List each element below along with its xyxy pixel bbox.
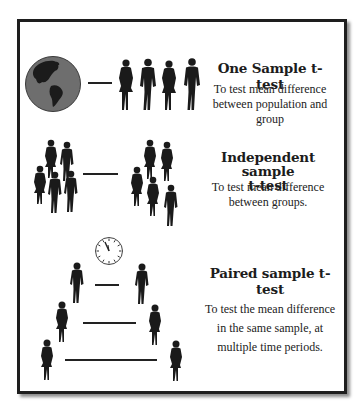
globe-icon bbox=[24, 55, 82, 113]
independent-sample-description: To test mean difference between groups. bbox=[198, 180, 338, 210]
pair-dash-2 bbox=[83, 322, 136, 324]
paired-sample-title: Paired sample t-test bbox=[196, 265, 344, 297]
person-pairs-over-time-icon bbox=[38, 262, 188, 387]
pair-dash-3 bbox=[65, 359, 157, 361]
group-a-people-icon bbox=[34, 139, 78, 219]
comparison-dash bbox=[88, 82, 112, 84]
group-of-four-people-icon bbox=[118, 58, 204, 113]
one-sample-description: To test mean difference between populati… bbox=[200, 82, 340, 127]
paired-sample-description: To test the mean difference in the same … bbox=[196, 300, 344, 357]
comparison-dash bbox=[83, 173, 118, 175]
group-b-people-icon bbox=[130, 139, 178, 229]
pair-dash-1 bbox=[95, 284, 119, 286]
